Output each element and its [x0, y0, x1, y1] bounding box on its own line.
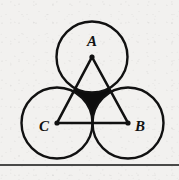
geometry-figure: A B C — [0, 0, 179, 180]
vertex-label-b: B — [134, 118, 145, 134]
geometry-canvas: A B C — [0, 0, 179, 180]
shaded-curvilinear-triangle — [0, 0, 179, 180]
vertex-label-c: C — [39, 118, 50, 134]
vertex-label-a: A — [86, 33, 97, 49]
vertex-dot-a — [89, 54, 94, 59]
vertex-dot-b — [125, 120, 130, 125]
vertex-dot-c — [54, 120, 59, 125]
